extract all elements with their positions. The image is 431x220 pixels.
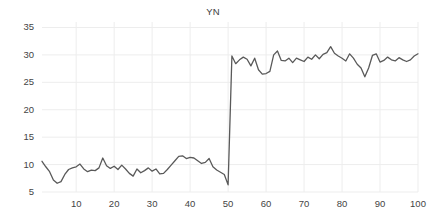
- y-tick-label: 35: [8, 21, 34, 32]
- y-tick-label: 20: [8, 104, 34, 115]
- y-tick-label: 25: [8, 76, 34, 87]
- x-tick-label: 30: [137, 198, 167, 209]
- x-tick-label: 40: [175, 198, 205, 209]
- x-tick-label: 10: [61, 198, 91, 209]
- x-tick-label: 80: [327, 198, 357, 209]
- y-tick-label: 15: [8, 131, 34, 142]
- x-tick-label: 100: [403, 198, 431, 209]
- y-tick-label: 30: [8, 49, 34, 60]
- x-tick-label: 60: [251, 198, 281, 209]
- y-tick-label: 5: [8, 186, 34, 197]
- x-tick-label: 20: [99, 198, 129, 209]
- y-tick-label: 10: [8, 159, 34, 170]
- x-tick-label: 70: [289, 198, 319, 209]
- x-tick-label: 50: [213, 198, 243, 209]
- x-tick-label: 90: [365, 198, 395, 209]
